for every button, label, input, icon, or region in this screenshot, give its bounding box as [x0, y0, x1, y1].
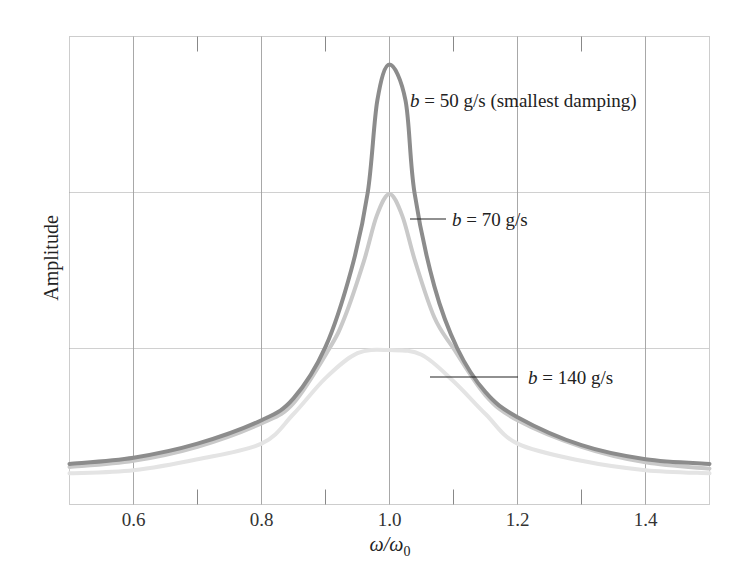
series-annotation: b = 70 g/s	[452, 209, 528, 230]
resonance-chart: b = 50 g/s (smallest damping)b = 70 g/sb…	[0, 0, 746, 582]
x-tick-label: 1.2	[506, 509, 530, 530]
annotation-symbol: b	[528, 367, 538, 388]
series-annotation: b = 140 g/s	[528, 367, 613, 388]
x-tick-label: 1.4	[634, 509, 658, 530]
annotations: b = 50 g/s (smallest damping)b = 70 g/sb…	[410, 90, 637, 388]
annotation-symbol: b	[452, 209, 462, 230]
y-axis-label: Amplitude	[40, 215, 63, 301]
x-tick-label: 0.8	[250, 509, 274, 530]
x-tick-labels: 0.60.81.01.21.4	[122, 509, 658, 530]
series-annotation: b = 50 g/s (smallest damping)	[410, 90, 637, 112]
x-tick-label: 1.0	[378, 509, 402, 530]
annotation-text: = 70 g/s	[462, 209, 528, 230]
x-axis-label: ω/ω0	[370, 533, 411, 559]
annotation-text: = 50 g/s (smallest damping)	[420, 90, 637, 112]
annotation-symbol: b	[410, 90, 420, 111]
annotation-text: = 140 g/s	[538, 367, 614, 388]
x-axis-label-main: ω/ω	[370, 533, 404, 555]
x-tick-label: 0.6	[122, 509, 146, 530]
x-axis-label-sub: 0	[403, 544, 410, 559]
